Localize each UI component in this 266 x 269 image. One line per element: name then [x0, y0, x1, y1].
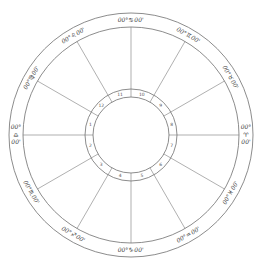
cusp-minute: 00': [30, 193, 41, 205]
cusp-degree: 00°: [118, 16, 129, 23]
zodiac-sign-icon: ♋: [128, 16, 133, 23]
cusp-degree: 00°: [241, 123, 252, 130]
house-ring-divider: [164, 154, 171, 158]
house-numbers: 123456789101112: [89, 92, 173, 178]
cusp-minute: 00': [75, 233, 87, 244]
house-number-12: 12: [98, 103, 104, 108]
house-ring-divider: [108, 95, 112, 102]
cusp-label-house-10: 00°♋00': [118, 16, 144, 23]
cusp-label-house-3: 00°♐00': [60, 224, 86, 243]
cusp-minute: 00': [230, 78, 241, 90]
cusp-minute: 00': [30, 64, 41, 76]
cusp-minute: 00': [189, 225, 201, 236]
cusp-minute: 00': [229, 179, 240, 191]
cusp-label-house-7: 00°♈00': [241, 123, 252, 145]
cusp-label-house-1: 00°♎00': [11, 123, 22, 145]
zodiac-sign-icon: ♑: [128, 246, 133, 253]
cusp-line-house-3: [77, 175, 108, 229]
cusp-label-house-5: 00°♒00': [175, 225, 201, 244]
cusp-line-house-6: [171, 158, 225, 189]
house-ring-divider: [150, 168, 154, 175]
house-number-8: 8: [170, 122, 173, 127]
cusp-minute: 00': [74, 25, 86, 36]
house-number-11: 11: [117, 92, 123, 97]
cusp-line-house-11: [77, 41, 108, 95]
zodiac-sign-icon: ♎: [13, 131, 18, 138]
cusp-label-house-6: 00°♓00': [220, 179, 239, 205]
house-number-2: 2: [89, 143, 92, 148]
house-ring-divider: [91, 154, 98, 158]
house-number-1: 1: [89, 122, 92, 127]
cusp-degree: 00°: [11, 123, 22, 130]
house-ring-divider: [91, 112, 98, 116]
house-ring-inner: [93, 97, 169, 173]
house-ring-divider: [164, 112, 171, 116]
cusp-minute: 00': [190, 34, 202, 45]
house-ring-divider: [108, 168, 112, 175]
cusp-line-house-12: [37, 81, 91, 112]
cusp-line-house-9: [154, 41, 185, 95]
cusp-line-house-8: [171, 81, 225, 112]
cusp-label-house-9: 00°♊00': [175, 25, 201, 44]
house-number-10: 10: [139, 92, 145, 97]
house-number-4: 4: [119, 173, 122, 178]
cusp-minute: 00': [134, 246, 144, 253]
house-number-9: 9: [159, 103, 162, 108]
cusp-label-house-4: 00°♑00': [118, 246, 144, 253]
house-number-7: 7: [170, 143, 173, 148]
house-ring-divider: [150, 95, 154, 102]
cusp-line-house-5: [154, 175, 185, 229]
cusp-minute: 00': [11, 138, 21, 145]
cusp-label-house-11: 00°♌00': [60, 25, 86, 44]
zodiac-sign-icon: ♈: [243, 131, 249, 138]
cusp-label-house-12: 00°♍00': [21, 64, 41, 91]
astrology-chart-wheel: 00°♎00'00°♏00'00°♐00'00°♑00'00°♒00'00°♓0…: [0, 0, 266, 269]
cusp-label-house-2: 00°♏00': [22, 179, 41, 205]
cusp-line-house-2: [37, 158, 91, 189]
house-number-6: 6: [159, 162, 162, 167]
house-number-5: 5: [140, 173, 143, 178]
cusp-minute: 00': [241, 138, 251, 145]
house-cusps: [23, 27, 239, 243]
cusp-degree: 00°: [118, 246, 129, 253]
cusp-label-house-8: 00°♉00': [221, 64, 240, 90]
house-number-3: 3: [100, 162, 103, 167]
cusp-minute: 00': [134, 16, 144, 23]
